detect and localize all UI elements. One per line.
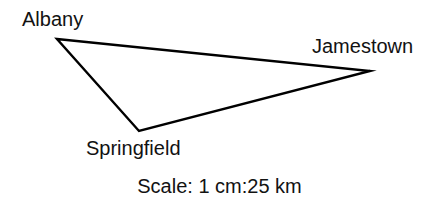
scale-caption: Scale: 1 cm:25 km	[0, 176, 439, 196]
city-label-jamestown: Jamestown	[312, 36, 413, 56]
city-label-albany: Albany	[22, 9, 83, 29]
scale-drawing-figure: Albany Jamestown Springfield Scale: 1 cm…	[0, 0, 439, 208]
city-label-springfield: Springfield	[86, 138, 181, 158]
